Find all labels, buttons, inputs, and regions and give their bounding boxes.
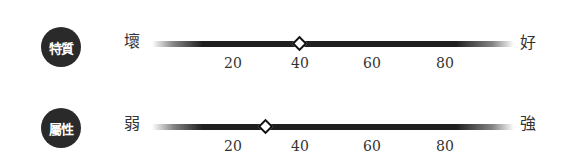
attribute-slider-track[interactable] (152, 124, 514, 130)
trait-left-label: 壞 (124, 34, 140, 50)
trait-slider-marker[interactable] (292, 36, 308, 52)
trait-badge-label: 特質 (49, 38, 74, 57)
attribute-badge-label: 屬性 (49, 119, 74, 138)
trait-tick-40: 40 (291, 56, 309, 70)
trait-tick-60: 60 (363, 56, 381, 70)
attribute-tick-40: 40 (291, 139, 309, 153)
trait-tick-80: 80 (436, 56, 454, 70)
trait-badge: 特質 (41, 27, 81, 67)
slider-row-trait: 特質 壞 好 20 40 60 80 (0, 0, 573, 81)
attribute-badge: 屬性 (41, 108, 81, 148)
trait-slider-track[interactable] (152, 41, 514, 47)
attribute-tick-80: 80 (436, 139, 454, 153)
attribute-left-label: 弱 (124, 116, 140, 132)
attribute-tick-60: 60 (363, 139, 381, 153)
attribute-slider-marker[interactable] (258, 119, 274, 135)
attribute-right-label: 強 (520, 116, 536, 132)
attribute-tick-20: 20 (224, 139, 242, 153)
slider-row-attribute: 屬性 弱 強 20 40 60 80 (0, 81, 573, 162)
trait-right-label: 好 (520, 35, 536, 51)
trait-tick-20: 20 (224, 56, 242, 70)
